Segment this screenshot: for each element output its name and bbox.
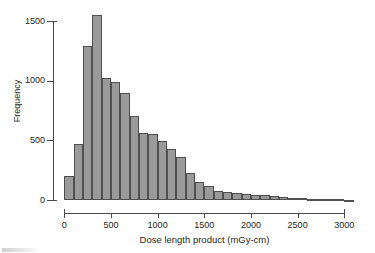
histogram-bar bbox=[204, 186, 213, 200]
histogram-bar bbox=[92, 15, 101, 200]
histogram-bar bbox=[223, 192, 232, 200]
histogram-bar bbox=[167, 149, 176, 200]
histogram-bar bbox=[251, 195, 260, 200]
page-scan-artifact bbox=[2, 248, 42, 252]
histogram-bar bbox=[298, 198, 307, 200]
histogram-bar bbox=[158, 141, 167, 200]
histogram-bar bbox=[120, 93, 129, 200]
histogram-bar bbox=[130, 116, 139, 200]
histogram-bar bbox=[111, 82, 120, 200]
histogram-bar bbox=[232, 193, 241, 200]
histogram-bar bbox=[242, 194, 251, 200]
histogram-bar bbox=[139, 133, 148, 200]
histogram-bar bbox=[214, 191, 223, 200]
histogram-bar bbox=[148, 134, 157, 200]
histogram-bar bbox=[307, 199, 316, 201]
histogram-bar bbox=[102, 78, 111, 200]
histogram-bar bbox=[64, 176, 73, 200]
histogram-bars bbox=[0, 0, 375, 253]
histogram-bar bbox=[83, 46, 92, 200]
histogram-bar bbox=[344, 200, 353, 202]
histogram-bar bbox=[279, 197, 288, 200]
histogram-bar bbox=[270, 196, 279, 200]
histogram-bar bbox=[260, 195, 269, 200]
histogram-bar bbox=[326, 199, 335, 201]
histogram-figure: 050010001500 Frequency 05001000150020002… bbox=[0, 0, 375, 253]
histogram-bar bbox=[335, 199, 344, 201]
histogram-bar bbox=[74, 144, 83, 200]
plot-area: 050010001500 Frequency 05001000150020002… bbox=[0, 0, 375, 253]
histogram-bar bbox=[176, 157, 185, 200]
histogram-bar bbox=[288, 198, 297, 200]
histogram-bar bbox=[195, 182, 204, 200]
histogram-bar bbox=[186, 173, 195, 200]
histogram-bar bbox=[316, 199, 325, 201]
